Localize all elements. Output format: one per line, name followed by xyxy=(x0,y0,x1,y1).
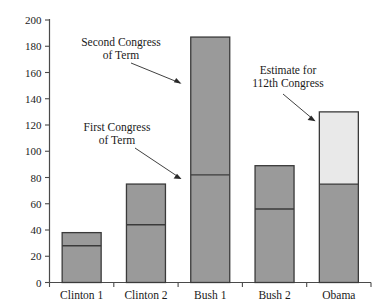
category-label-bush-1: Bush 1 xyxy=(194,289,227,301)
bar-bush-1 xyxy=(191,37,230,282)
bar-segment-second-congress xyxy=(62,233,101,246)
bar-segment-first-congress xyxy=(319,184,358,282)
bar-segment-first-congress xyxy=(126,225,165,283)
category-label-obama: Obama xyxy=(322,289,355,301)
bar-segment-second-congress xyxy=(319,112,358,184)
bar-clinton-2 xyxy=(126,184,165,282)
y-axis-tick-label: 180 xyxy=(25,40,42,52)
y-axis-tick-label: 100 xyxy=(25,145,42,157)
annotation-estimate-line1: Estimate for xyxy=(260,64,317,76)
y-axis-tick-label: 20 xyxy=(31,250,43,262)
annotation-estimate-line2: 112th Congress xyxy=(252,77,324,90)
bar-chart: 020406080100120140160180200 Clinton 1Cli… xyxy=(0,0,376,307)
y-axis-tick-label: 40 xyxy=(31,224,43,236)
y-axis-tick-label: 140 xyxy=(25,93,42,105)
bar-segment-second-congress xyxy=(126,184,165,225)
annotation-second-congress-line1: Second Congress xyxy=(81,36,161,49)
category-label-clinton-2: Clinton 2 xyxy=(124,289,167,301)
y-axis-tick-label: 160 xyxy=(25,67,42,79)
chart-canvas: 020406080100120140160180200 Clinton 1Cli… xyxy=(0,0,376,307)
y-axis-tick-label: 60 xyxy=(31,198,43,210)
annotation-first-congress-line2: of Term xyxy=(99,134,135,146)
annotation-first-congress-line1: First Congress xyxy=(84,121,151,134)
bar-segment-first-congress xyxy=(255,209,294,283)
bar-segment-second-congress xyxy=(191,37,230,175)
annotation-second-congress-line2: of Term xyxy=(103,49,139,61)
bar-segment-first-congress xyxy=(62,246,101,283)
y-axis-tick-label: 80 xyxy=(31,172,43,184)
bar-clinton-1 xyxy=(62,233,101,283)
y-axis-tick-label: 200 xyxy=(25,14,42,26)
bar-segment-first-congress xyxy=(191,175,230,283)
bar-segment-second-congress xyxy=(255,166,294,209)
bar-bush-2 xyxy=(255,166,294,283)
y-axis-tick-label: 0 xyxy=(36,277,42,289)
category-label-bush-2: Bush 2 xyxy=(258,289,291,301)
bar-obama xyxy=(319,112,358,283)
category-label-clinton-1: Clinton 1 xyxy=(60,289,103,301)
y-axis-tick-label: 120 xyxy=(25,119,42,131)
